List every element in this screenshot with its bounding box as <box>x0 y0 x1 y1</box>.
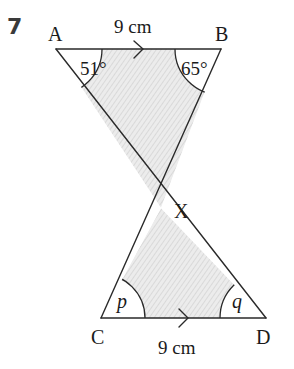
vertex-label-D: D <box>256 326 270 348</box>
vertex-label-C: C <box>91 326 104 348</box>
length-label-CD: 9 cm <box>158 337 196 358</box>
length-label-AB: 9 cm <box>114 16 152 37</box>
angle-label-A: 51° <box>80 58 107 79</box>
crossed-triangles-diagram: A B X C D 9 cm 9 cm 51° 65° p q <box>0 0 294 369</box>
angle-label-B: 65° <box>181 58 208 79</box>
vertex-label-A: A <box>48 23 63 45</box>
angle-label-C: p <box>115 290 127 313</box>
vertex-label-B: B <box>215 23 228 45</box>
angle-label-D: q <box>232 290 242 313</box>
vertex-label-X: X <box>174 200 189 222</box>
